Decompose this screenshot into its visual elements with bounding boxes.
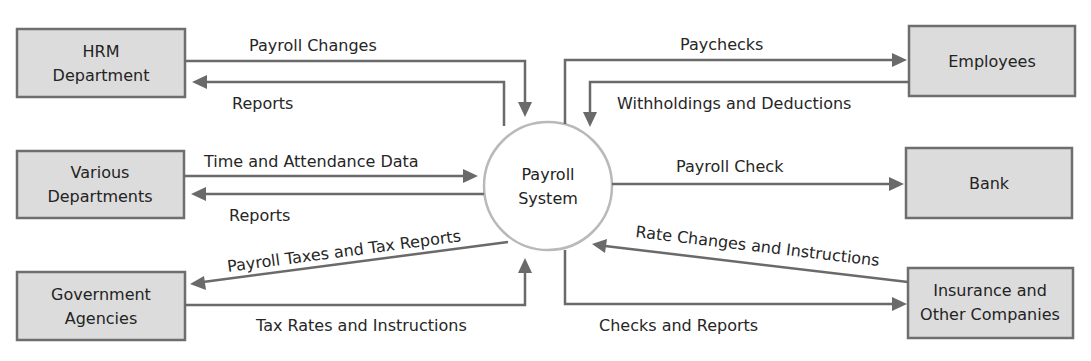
arrow-up-icon <box>518 258 532 273</box>
entity-insurance-companies[interactable]: Insurance and Other Companies <box>908 268 1073 338</box>
flow-label: Checks and Reports <box>599 316 758 335</box>
entity-label: Employees <box>948 52 1036 71</box>
flow-label: Withholdings and Deductions <box>617 94 851 113</box>
entity-label: Government <box>51 285 151 304</box>
flow-department-reports: Reports <box>191 187 484 225</box>
arrow-left-icon <box>592 239 607 253</box>
entity-label: Departments <box>47 187 152 206</box>
process-payroll-system[interactable]: Payroll System <box>484 122 612 250</box>
flow-payroll-check: Payroll Check <box>612 157 904 191</box>
entity-bank[interactable]: Bank <box>906 148 1072 218</box>
flow-withholdings: Withholdings and Deductions <box>583 82 909 127</box>
entity-label: Various <box>71 163 130 182</box>
flow-label: Payroll Taxes and Tax Reports <box>226 226 462 276</box>
arrow-right-icon <box>889 177 904 191</box>
flow-label: Reports <box>232 94 293 113</box>
entity-label: Insurance and <box>933 281 1047 300</box>
payroll-context-diagram: HRM Department Various Departments Gover… <box>0 0 1091 361</box>
flow-label: Reports <box>229 206 290 225</box>
arrow-right-icon <box>892 53 907 67</box>
process-label: System <box>518 189 578 208</box>
arrow-right-icon <box>463 169 478 183</box>
entity-hrm-department[interactable]: HRM Department <box>17 29 185 97</box>
entity-label: HRM <box>83 42 120 61</box>
arrow-right-icon <box>892 297 907 311</box>
process-label: Payroll <box>521 165 574 184</box>
flow-label: Tax Rates and Instructions <box>255 316 467 335</box>
entity-employees[interactable]: Employees <box>909 26 1075 96</box>
flow-label: Paychecks <box>680 35 763 54</box>
flow-payroll-taxes: Payroll Taxes and Tax Reports <box>190 226 508 290</box>
arrow-down-icon <box>583 112 597 127</box>
flow-label: Payroll Check <box>676 157 784 176</box>
entity-government-agencies[interactable]: Government Agencies <box>17 272 185 340</box>
flow-label: Time and Attendance Data <box>203 152 419 171</box>
arrow-left-icon <box>192 75 207 89</box>
flow-label: Rate Changes and Instructions <box>635 222 881 270</box>
flow-time-attendance: Time and Attendance Data <box>184 152 478 183</box>
arrow-left-icon <box>190 276 206 290</box>
entity-label: Agencies <box>65 309 138 328</box>
flow-hrm-reports: Reports <box>192 75 504 126</box>
arrow-left-icon <box>191 187 206 201</box>
flow-rate-changes: Rate Changes and Instructions <box>592 222 908 282</box>
entity-label: Other Companies <box>920 305 1060 324</box>
entity-various-departments[interactable]: Various Departments <box>17 151 184 218</box>
arrow-down-icon <box>518 102 532 117</box>
entity-label: Department <box>53 66 150 85</box>
entity-label: Bank <box>969 174 1010 193</box>
flow-label: Payroll Changes <box>249 36 377 55</box>
